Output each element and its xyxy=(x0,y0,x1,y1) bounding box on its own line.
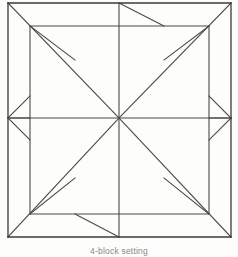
quilt-block-diagram xyxy=(0,0,238,240)
caption-text: 4-block setting xyxy=(90,246,148,257)
figure-container: 4-block setting xyxy=(0,0,238,257)
figure-caption: 4-block setting xyxy=(0,245,238,257)
